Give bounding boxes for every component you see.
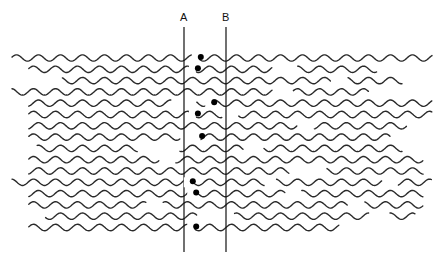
strand-break [189, 64, 196, 74]
strand-end-dot [211, 99, 217, 105]
strand-segment [12, 89, 272, 95]
strand-segment [302, 190, 423, 196]
strand-segment [37, 145, 137, 151]
strand-end-dot [193, 224, 199, 230]
strand-segment [29, 190, 285, 196]
strand-segment [29, 157, 159, 163]
strand-segment [201, 134, 390, 140]
strand-segment [264, 145, 402, 151]
strand-end-dot [190, 178, 196, 184]
strand-segment [62, 77, 330, 83]
strand-segment [197, 100, 432, 106]
strand-end-dot [199, 133, 205, 139]
marker-label-b: B [222, 11, 229, 23]
strand-segment [29, 100, 171, 106]
strand-segment [314, 123, 406, 129]
strand-segment [235, 213, 369, 219]
strand-segment [29, 168, 289, 174]
dot-layer [184, 53, 217, 233]
strand-segment [398, 179, 431, 185]
strand-segment [239, 111, 432, 117]
strand-layer [12, 55, 432, 231]
strand-segment [365, 202, 423, 208]
strand-break [189, 110, 196, 120]
strand-segment [46, 213, 197, 219]
strand-end-dot [198, 54, 204, 60]
strand-segment [29, 66, 272, 72]
strand-segment [277, 179, 382, 185]
strand-break [205, 98, 212, 108]
strand-end-dot [195, 111, 201, 117]
strand-segment [29, 134, 180, 140]
strand-segment [327, 168, 423, 174]
strand-segment [29, 123, 297, 129]
strand-segment [298, 66, 377, 72]
strand-segment [180, 145, 243, 151]
strand-segment [390, 213, 415, 219]
strand-break [187, 223, 194, 233]
strand-end-dot [193, 190, 199, 196]
strand-break [187, 189, 194, 199]
marker-label-a: A [180, 11, 188, 23]
strand-break [192, 53, 199, 63]
strand-break [184, 177, 191, 187]
strand-segment [29, 202, 146, 208]
strand-segment [163, 202, 347, 208]
strand-segment [348, 77, 402, 83]
strand-end-dot [195, 65, 201, 71]
strand-diagram: A B [0, 0, 438, 261]
strand-segment [12, 55, 432, 61]
strand-segment [176, 157, 423, 163]
strand-segment [293, 89, 368, 95]
strand-break [193, 132, 200, 142]
